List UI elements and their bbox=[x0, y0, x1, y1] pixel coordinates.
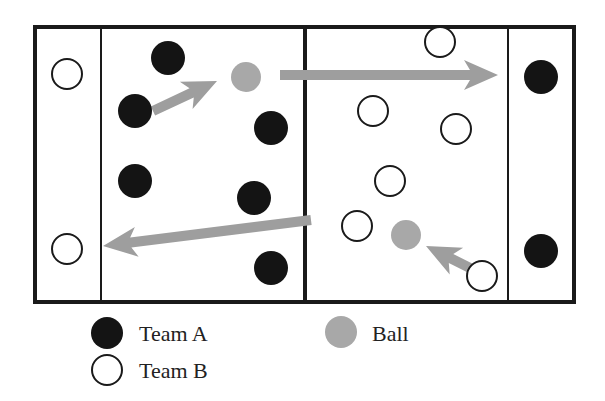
team-a-player bbox=[254, 111, 288, 145]
team-a-player bbox=[151, 41, 185, 75]
ball-legend-icon bbox=[325, 316, 357, 348]
team-b-player bbox=[342, 211, 372, 241]
team-b-player bbox=[425, 27, 455, 57]
legend-icons bbox=[91, 316, 357, 385]
team-b-player bbox=[52, 59, 82, 89]
ball bbox=[391, 220, 421, 250]
team-b-legend-icon bbox=[92, 355, 122, 385]
team-b-player bbox=[441, 114, 471, 144]
team-a-player bbox=[254, 251, 288, 285]
court-diagram bbox=[0, 0, 605, 401]
team-a-player bbox=[118, 164, 152, 198]
ball bbox=[231, 62, 261, 92]
team-a-player bbox=[524, 60, 558, 94]
court bbox=[35, 27, 574, 302]
team-b-player bbox=[52, 234, 82, 264]
legend-team-a-label: Team A bbox=[139, 322, 208, 346]
legend-team-b-label: Team B bbox=[139, 359, 208, 383]
team-a-player bbox=[118, 94, 152, 128]
legend-ball-label: Ball bbox=[372, 322, 409, 346]
team-a-legend-icon bbox=[91, 317, 123, 349]
team-b-player bbox=[375, 166, 405, 196]
team-a-player bbox=[237, 181, 271, 215]
team-b-player bbox=[358, 96, 388, 126]
team-a-player bbox=[524, 234, 558, 268]
team-b-player bbox=[467, 261, 497, 291]
